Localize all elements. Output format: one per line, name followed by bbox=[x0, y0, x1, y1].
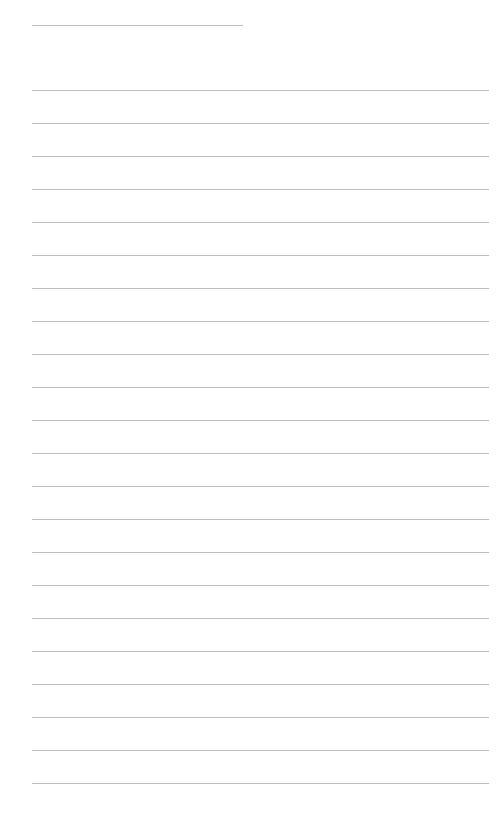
ruled-line bbox=[32, 651, 489, 684]
ruled-line bbox=[32, 387, 489, 420]
ruled-line bbox=[32, 222, 489, 255]
ruled-line bbox=[32, 717, 489, 750]
ruled-line bbox=[32, 783, 489, 813]
header-title-line bbox=[32, 25, 243, 26]
ruled-line bbox=[32, 189, 489, 222]
ruled-line bbox=[32, 90, 489, 123]
ruled-line bbox=[32, 255, 489, 288]
ruled-line bbox=[32, 552, 489, 585]
ruled-line bbox=[32, 156, 489, 189]
ruled-line bbox=[32, 750, 489, 783]
ruled-line bbox=[32, 519, 489, 552]
ruled-line bbox=[32, 321, 489, 354]
ruled-line bbox=[32, 354, 489, 387]
ruled-lines bbox=[32, 90, 489, 813]
ruled-line bbox=[32, 453, 489, 486]
ruled-line bbox=[32, 420, 489, 453]
ruled-line bbox=[32, 288, 489, 321]
ruled-line bbox=[32, 684, 489, 717]
lined-page bbox=[0, 0, 497, 813]
ruled-line bbox=[32, 123, 489, 156]
ruled-line bbox=[32, 618, 489, 651]
ruled-line bbox=[32, 585, 489, 618]
ruled-line bbox=[32, 486, 489, 519]
